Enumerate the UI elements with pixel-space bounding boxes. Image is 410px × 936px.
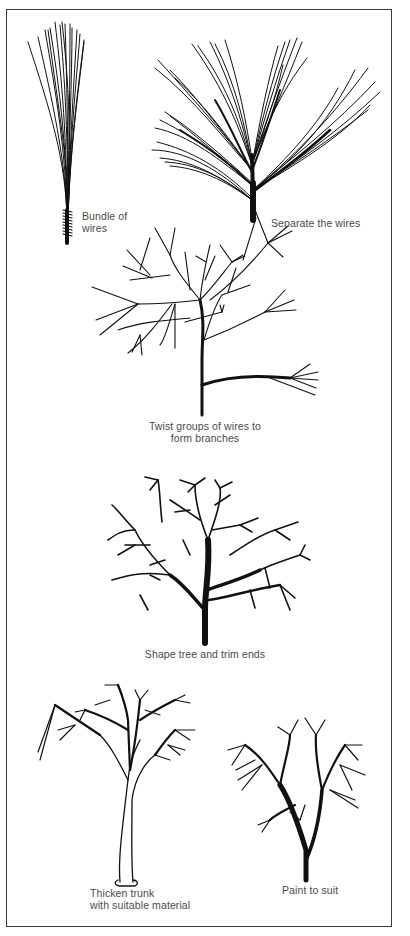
caption-line: Shape tree and trim ends xyxy=(120,648,290,660)
shaped-tree-illustration xyxy=(108,477,310,643)
caption-line: wires xyxy=(82,222,127,234)
caption-line: Separate the wires xyxy=(271,217,360,229)
bundle-of-wires-illustration xyxy=(28,22,84,243)
caption-line: form branches xyxy=(120,432,290,444)
caption-line: with suitable material xyxy=(90,899,190,911)
twist-groups-illustration xyxy=(92,210,318,415)
painted-tree-illustration xyxy=(228,718,365,880)
caption-line: Thicken trunk xyxy=(90,887,190,899)
wire-tree-illustrations xyxy=(0,0,410,936)
thickened-trunk-illustration xyxy=(38,685,195,886)
separate-wires-illustration xyxy=(152,38,380,220)
caption-line: Paint to suit xyxy=(282,884,338,896)
caption-shape-tree: Shape tree and trim ends xyxy=(120,648,290,660)
caption-twist-groups: Twist groups of wires to form branches xyxy=(120,420,290,444)
caption-line: Twist groups of wires to xyxy=(120,420,290,432)
caption-bundle-of-wires: Bundle of wires xyxy=(82,210,127,234)
caption-thicken-trunk: Thicken trunk with suitable material xyxy=(90,887,190,911)
caption-paint-to-suit: Paint to suit xyxy=(282,884,338,896)
caption-separate-wires: Separate the wires xyxy=(271,217,360,229)
caption-line: Bundle of xyxy=(82,210,127,222)
